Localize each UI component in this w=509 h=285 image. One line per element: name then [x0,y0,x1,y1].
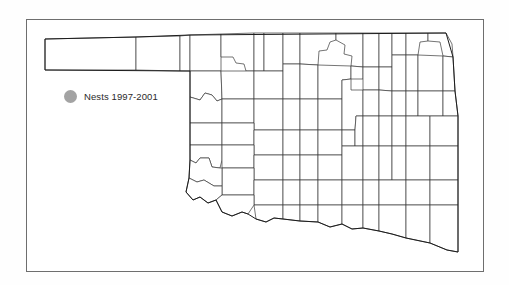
figure-frame [26,19,484,272]
map-legend: Nests 1997-2001 [64,90,158,103]
nest-marker-icon [64,90,77,103]
legend-label: Nests 1997-2001 [84,90,158,103]
figure-canvas: Nests 1997-2001 [0,0,509,285]
